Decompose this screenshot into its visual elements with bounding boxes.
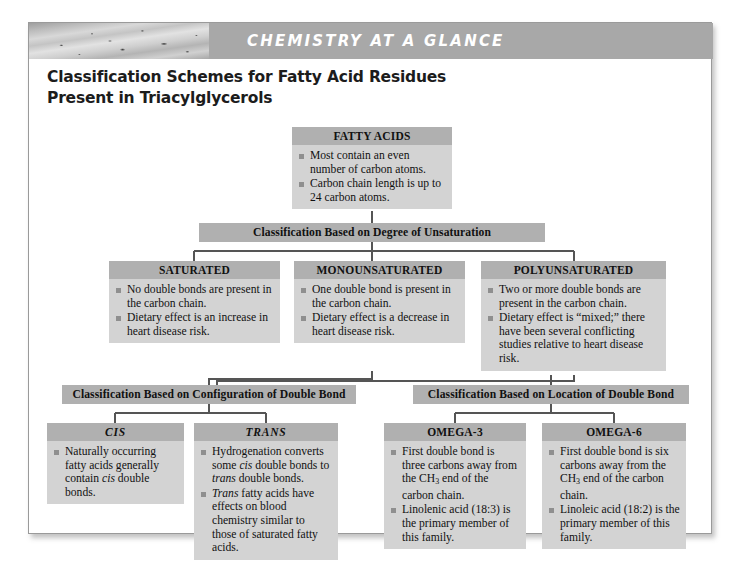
- list-item: Dietary effect is “mixed;” there have be…: [487, 311, 660, 365]
- list-item: First double bond is three carbons away …: [390, 445, 520, 502]
- node-omega-6-list: First double bond is six carbons away fr…: [542, 441, 686, 549]
- node-trans: TRANS Hydrogenation converts some cis do…: [194, 423, 338, 560]
- connector-poly-configuration: [217, 375, 574, 385]
- bar-location-of-double-bond: Classification Based on Location of Doub…: [413, 385, 689, 404]
- node-omega-3-title: OMEGA-3: [384, 423, 526, 441]
- list-item: Naturally occurring fatty acids generall…: [53, 445, 178, 499]
- list-item: Carbon chain length is up to 24 carbon a…: [298, 177, 446, 204]
- node-omega-6-title: OMEGA-6: [542, 423, 686, 441]
- flowchart: FATTY ACIDS Most contain an even number …: [29, 23, 713, 535]
- node-trans-title: TRANS: [194, 423, 338, 441]
- node-saturated-title: SATURATED: [109, 261, 280, 279]
- node-omega-3-list: First double bond is three carbons away …: [384, 441, 526, 549]
- chemistry-at-a-glance-page: CHEMISTRY AT A GLANCE Classification Sch…: [28, 22, 712, 534]
- list-item: Linolenic acid (18:3) is the primary mem…: [390, 503, 520, 544]
- bar-degree-of-unsaturation: Classification Based on Degree of Unsatu…: [199, 223, 545, 242]
- list-item: Two or more double bonds are present in …: [487, 283, 660, 310]
- node-cis-list: Naturally occurring fatty acids generall…: [47, 441, 184, 504]
- node-saturated: SATURATED No double bonds are present in…: [109, 261, 280, 343]
- node-trans-list: Hydrogenation converts some cis double b…: [194, 441, 338, 560]
- node-monounsaturated: MONOUNSATURATED One double bond is prese…: [294, 261, 465, 343]
- node-fatty-acids-list: Most contain an even number of carbon at…: [292, 145, 452, 209]
- node-polyunsaturated: POLYUNSATURATED Two or more double bonds…: [481, 261, 666, 371]
- list-item: Dietary effect is a decrease in heart di…: [300, 311, 459, 338]
- node-monounsaturated-title: MONOUNSATURATED: [294, 261, 465, 279]
- list-item: Most contain an even number of carbon at…: [298, 149, 446, 176]
- node-omega-3: OMEGA-3 First double bond is three carbo…: [384, 423, 526, 549]
- list-item: Dietary effect is an increase in heart d…: [115, 311, 274, 338]
- bar-configuration-of-double-bond: Classification Based on Configuration of…: [62, 385, 356, 404]
- node-fatty-acids-title: FATTY ACIDS: [292, 127, 452, 145]
- node-fatty-acids: FATTY ACIDS Most contain an even number …: [292, 127, 452, 209]
- list-item: Linoleic acid (18:2) is the primary memb…: [548, 503, 680, 544]
- node-polyunsaturated-title: POLYUNSATURATED: [481, 261, 666, 279]
- node-polyunsaturated-list: Two or more double bonds are present in …: [481, 279, 666, 371]
- node-cis-title: CIS: [47, 423, 184, 441]
- list-item: First double bond is six carbons away fr…: [548, 445, 680, 502]
- node-saturated-list: No double bonds are present in the carbo…: [109, 279, 280, 343]
- connector-mono-configuration: [209, 371, 372, 385]
- list-item: Hydrogenation converts some cis double b…: [200, 445, 332, 486]
- list-item: One double bond is present in the carbon…: [300, 283, 459, 310]
- node-cis: CIS Naturally occurring fatty acids gene…: [47, 423, 184, 504]
- node-omega-6: OMEGA-6 First double bond is six carbons…: [542, 423, 686, 549]
- list-item: No double bonds are present in the carbo…: [115, 283, 274, 310]
- node-monounsaturated-list: One double bond is present in the carbon…: [294, 279, 465, 343]
- list-item: Trans fatty acids have effects on blood …: [200, 487, 332, 555]
